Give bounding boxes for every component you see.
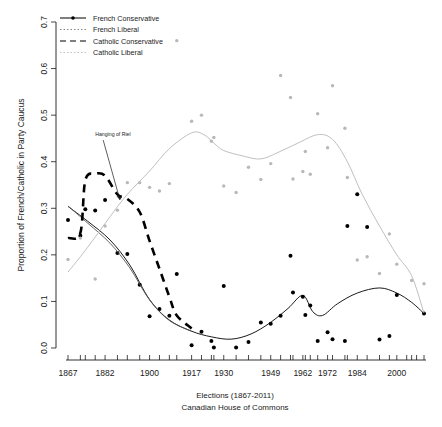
legend-label: Catholic Liberal (93, 48, 143, 57)
legend-label: French Conservative (93, 14, 159, 23)
y-tick-label: 0.7 (39, 16, 49, 28)
x-axis-title: Elections (1867-2011) (196, 391, 274, 400)
series-french-conservative (66, 192, 426, 349)
data-point (303, 313, 307, 317)
chart-canvas: 0.00.10.20.30.40.50.60.7 186718821900191… (0, 0, 442, 427)
data-point (200, 113, 203, 116)
x-tick-label: 1867 (59, 368, 78, 378)
x-tick-label: 1962 (293, 368, 312, 378)
data-point (316, 339, 320, 343)
data-point (395, 262, 398, 265)
data-point (212, 136, 215, 139)
x-tick-label: 1900 (140, 368, 159, 378)
legend-label: French Liberal (93, 25, 139, 34)
x-tick-label: 1984 (348, 368, 367, 378)
data-point (343, 126, 346, 129)
data-point (387, 334, 391, 338)
data-point (269, 162, 272, 165)
y-tick-label: 0.2 (39, 249, 49, 261)
y-tick-label: 0.6 (39, 62, 49, 74)
series-trend-line (68, 206, 424, 339)
data-point (395, 293, 399, 297)
data-point (289, 254, 293, 258)
data-point (138, 181, 141, 184)
data-point (259, 178, 262, 181)
data-point (103, 224, 106, 227)
data-point (355, 192, 359, 196)
data-point (388, 232, 391, 235)
x-tick-label: 1882 (96, 368, 115, 378)
data-point (326, 146, 329, 149)
y-tick-label: 0.5 (39, 109, 49, 121)
series-french-liberal (68, 206, 192, 331)
data-point (378, 338, 382, 342)
legend-item-catholic-liberal[interactable]: Catholic Liberal (60, 48, 143, 57)
y-axis: 0.00.10.20.30.40.50.60.7 (39, 16, 56, 354)
data-point (93, 277, 96, 280)
data-point (126, 181, 129, 184)
annotation-layer: Hanging of Riel (95, 131, 130, 200)
data-point (378, 272, 381, 275)
data-point (291, 177, 294, 180)
data-point (279, 314, 283, 318)
x-axis-subtitle: Canadian House of Commons (181, 403, 288, 412)
data-point (93, 209, 97, 213)
data-point (269, 322, 273, 326)
data-point (289, 96, 292, 99)
data-point (158, 189, 161, 192)
legend-item-french-conservative[interactable]: French Conservative (60, 14, 159, 23)
data-point (190, 343, 194, 347)
legend-item-french-liberal[interactable]: French Liberal (60, 25, 139, 34)
annotation-label: Hanging of Riel (95, 131, 130, 137)
annotation-arrow (103, 140, 120, 200)
x-tick-label: 1972 (318, 368, 337, 378)
data-point (331, 337, 335, 341)
data-point (259, 320, 263, 324)
data-point (246, 340, 250, 344)
x-tick-label: 1949 (261, 368, 280, 378)
data-point (234, 346, 238, 350)
data-point (175, 39, 178, 42)
data-point (210, 140, 213, 143)
data-point (212, 346, 216, 350)
data-point (103, 198, 107, 202)
data-point (175, 272, 179, 276)
data-point (308, 304, 312, 308)
data-point (234, 191, 237, 194)
data-point (148, 186, 151, 189)
legend-label: Catholic Conservative (93, 37, 163, 46)
data-point (66, 258, 69, 261)
data-point (365, 225, 369, 229)
y-tick-label: 0.3 (39, 202, 49, 214)
data-point (167, 314, 171, 318)
data-point (148, 314, 152, 318)
data-point (422, 282, 425, 285)
x-tick-label: 1917 (182, 368, 201, 378)
data-point (279, 74, 282, 77)
data-point (291, 291, 295, 295)
series-catholic-liberal (66, 39, 425, 313)
data-point (168, 182, 171, 185)
y-tick-label: 0.1 (39, 295, 49, 307)
y-tick-label: 0.4 (39, 156, 49, 168)
data-point (190, 119, 193, 122)
chart-container: 0.00.10.20.30.40.50.60.7 186718821900191… (0, 0, 442, 427)
data-series-layer (66, 39, 426, 350)
data-point (346, 176, 349, 179)
data-point (301, 170, 304, 173)
series-trend-line (68, 173, 192, 328)
y-axis-title: Proportion of French/Catholic in Party C… (16, 99, 26, 272)
data-point (331, 84, 334, 87)
data-point (304, 150, 307, 153)
data-point (309, 173, 312, 176)
legend-item-catholic-conservative[interactable]: Catholic Conservative (60, 37, 163, 46)
data-point (343, 339, 347, 343)
series-catholic-conservative (68, 173, 192, 328)
series-trend-line (68, 206, 192, 331)
data-point (209, 339, 213, 343)
x-tick-label: 2000 (387, 368, 406, 378)
data-point (66, 218, 70, 222)
data-point (326, 330, 330, 334)
data-point (301, 295, 305, 299)
data-point (222, 284, 226, 288)
